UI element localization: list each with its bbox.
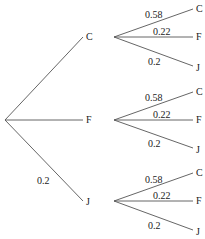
- prob-fj: 0.2: [148, 139, 161, 149]
- prob-cf: 0.22: [153, 27, 171, 37]
- prob-jj: 0.2: [148, 221, 161, 231]
- node-j: J: [86, 197, 90, 207]
- prob-root-j: 0.2: [37, 176, 50, 186]
- node-ff: F: [196, 115, 202, 125]
- prob-cc: 0.58: [145, 10, 163, 20]
- node-cf: F: [196, 32, 202, 42]
- prob-fc: 0.58: [145, 93, 163, 103]
- node-c: C: [86, 32, 93, 42]
- prob-ff: 0.22: [153, 110, 171, 120]
- node-jf: F: [196, 196, 202, 206]
- prob-jc: 0.58: [145, 175, 163, 185]
- prob-jf: 0.22: [153, 191, 171, 201]
- tree-lines: [0, 0, 205, 239]
- node-fj: J: [196, 145, 200, 155]
- node-f: F: [86, 115, 92, 125]
- node-jj: J: [196, 227, 200, 237]
- node-jc: C: [196, 168, 203, 178]
- node-cc: C: [196, 4, 203, 14]
- node-fc: C: [196, 87, 203, 97]
- node-cj: J: [196, 63, 200, 73]
- prob-cj: 0.2: [148, 57, 161, 67]
